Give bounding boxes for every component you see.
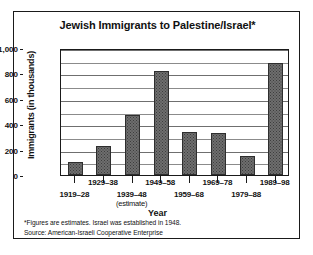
bar-1949–58 <box>154 71 169 175</box>
gridline-1000 <box>61 50 288 51</box>
chart-title: Jewish Immigrants to Palestine/Israel* <box>14 19 301 31</box>
y-tick-mark-600 <box>20 100 23 101</box>
y-tick-label-800: 800 <box>0 70 18 79</box>
bar-1969–78 <box>211 133 226 175</box>
y-tick-mark-800 <box>20 74 23 75</box>
gridline-200 <box>61 152 288 153</box>
gridline-800 <box>61 75 288 76</box>
y-tick-label-0: 0 <box>0 172 18 181</box>
chart-notes: *Figures are estimates. Israel was estab… <box>24 218 294 237</box>
y-tick-mark-400 <box>20 125 23 126</box>
bar-1979–88 <box>240 156 255 175</box>
x-axis-label-1949–58: 1949–58 <box>132 178 188 187</box>
x-axis-sublabel-1939–48: (estimate) <box>104 199 160 208</box>
plot-area <box>60 49 289 176</box>
y-tick-label-1000: 1,000 <box>0 45 18 54</box>
y-tick-label-200: 200 <box>0 146 18 155</box>
x-axis-label-1989–98: 1989–98 <box>247 178 303 187</box>
chart-frame: Jewish Immigrants to Palestine/Israel* I… <box>13 11 300 239</box>
gridline-600 <box>61 101 288 102</box>
gridline-700 <box>61 88 288 89</box>
gridline-500 <box>61 114 288 115</box>
x-axis-label-1939–48: 1939–48(estimate) <box>104 190 160 208</box>
bar-1989–98 <box>268 63 283 175</box>
x-axis-label-1959–68: 1959–68 <box>161 190 217 199</box>
x-axis-label-1969–78: 1969–78 <box>189 178 245 187</box>
bar-1939–48 <box>125 115 140 175</box>
x-axis-title: Year <box>14 208 301 218</box>
plot-inner <box>61 50 288 175</box>
x-axis-label-1979–88: 1979–88 <box>218 190 274 199</box>
chart-figure: Jewish Immigrants to Palestine/Israel* I… <box>0 0 313 255</box>
bar-1959–68 <box>182 132 197 175</box>
y-tick-mark-200 <box>20 151 23 152</box>
x-axis-label-1919–28: 1919–28 <box>46 190 102 199</box>
gridline-300 <box>61 139 288 140</box>
bar-1919–28 <box>68 162 83 175</box>
footnote-text: *Figures are estimates. Israel was estab… <box>24 218 294 228</box>
y-tick-label-400: 400 <box>0 121 18 130</box>
source-text: Source: American-Israeli Cooperative Ent… <box>24 228 294 238</box>
y-tick-mark-1000 <box>20 49 23 50</box>
bar-1929–38 <box>96 146 111 175</box>
y-tick-label-600: 600 <box>0 95 18 104</box>
y-tick-mark-0 <box>20 176 23 177</box>
gridline-400 <box>61 126 288 127</box>
gridline-900 <box>61 63 288 64</box>
y-axis-title: Immigrants (in thousands) <box>26 45 36 165</box>
x-axis-label-1929–38: 1929–38 <box>75 178 131 187</box>
